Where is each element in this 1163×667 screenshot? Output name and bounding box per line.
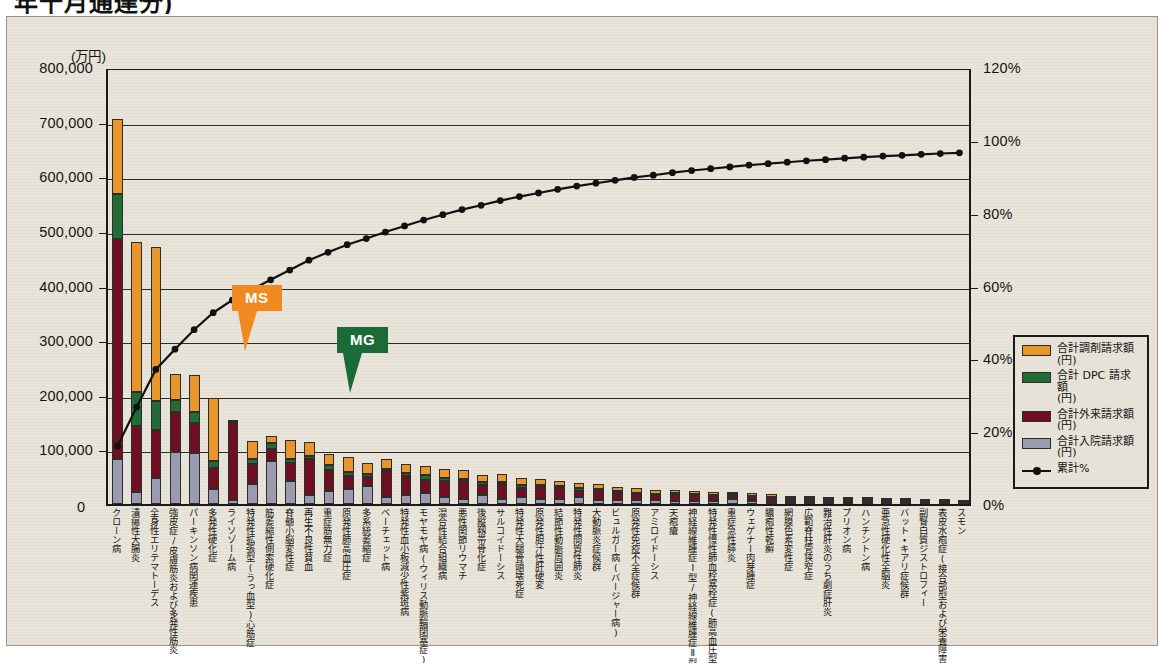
bar-stack[interactable] bbox=[208, 67, 219, 504]
x-axis-category-label: 膿疱性乾癬 bbox=[764, 508, 774, 663]
bar-segment-0 bbox=[612, 500, 623, 504]
bar-segment-3 bbox=[401, 464, 412, 473]
bar-segment-0 bbox=[843, 502, 854, 504]
bar-stack[interactable] bbox=[554, 67, 565, 504]
bar-stack[interactable] bbox=[285, 67, 296, 504]
bar-stack[interactable] bbox=[324, 67, 335, 504]
bar-stack[interactable] bbox=[112, 67, 123, 504]
bar-stack[interactable] bbox=[574, 67, 585, 504]
callout-ms-tail bbox=[238, 311, 257, 351]
bar-segment-0 bbox=[131, 492, 142, 504]
bar-segment-3 bbox=[823, 497, 834, 499]
y-axis-left-tick-label: 500,000 bbox=[7, 224, 93, 240]
bar-segment-1 bbox=[112, 239, 123, 459]
x-axis-category-label: 副腎白質ジストロフィー bbox=[918, 508, 928, 663]
x-axis-category-label: 特発性大腿骨頭壊死症 bbox=[514, 508, 524, 663]
bar-stack[interactable] bbox=[362, 67, 373, 504]
bar-segment-2 bbox=[285, 459, 296, 463]
bar-stack[interactable] bbox=[535, 67, 546, 504]
bar-stack[interactable] bbox=[477, 67, 488, 504]
bar-stack[interactable] bbox=[785, 67, 796, 504]
bar-stack[interactable] bbox=[516, 67, 527, 504]
bar-segment-3 bbox=[574, 483, 585, 488]
bar-stack[interactable] bbox=[593, 67, 604, 504]
callout-ms[interactable]: MS bbox=[232, 285, 282, 311]
bar-stack[interactable] bbox=[804, 67, 815, 504]
bar-stack[interactable] bbox=[304, 67, 315, 504]
bar-segment-3 bbox=[381, 459, 392, 468]
bar-stack[interactable] bbox=[401, 67, 412, 504]
bar-stack[interactable] bbox=[766, 67, 777, 504]
page-title-strip: 年十月通達分) bbox=[0, 0, 1163, 14]
bar-stack[interactable] bbox=[727, 67, 738, 504]
bar-segment-3 bbox=[304, 442, 315, 456]
legend-swatch-icon bbox=[1022, 345, 1051, 356]
bar-stack[interactable] bbox=[939, 67, 950, 504]
bar-segment-3 bbox=[228, 420, 239, 422]
bar-segment-3 bbox=[535, 479, 546, 485]
bar-segment-1 bbox=[497, 484, 508, 499]
bar-stack[interactable] bbox=[439, 67, 450, 504]
y-axis-left-tick-label: 400,000 bbox=[7, 279, 93, 295]
bar-segment-3 bbox=[708, 492, 719, 495]
bar-segment-1 bbox=[420, 480, 431, 493]
bar-segment-3 bbox=[631, 488, 642, 493]
bar-segment-1 bbox=[170, 412, 181, 452]
bar-segment-0 bbox=[516, 497, 527, 504]
x-axis-category-label: プリオン病 bbox=[841, 508, 851, 663]
bar-segment-3 bbox=[516, 478, 527, 485]
bar-stack[interactable] bbox=[631, 67, 642, 504]
bar-stack[interactable] bbox=[843, 67, 854, 504]
x-axis-category-label: ビュルガー病(バージャー病) bbox=[610, 508, 620, 663]
bar-segment-3 bbox=[554, 481, 565, 486]
bar-stack[interactable] bbox=[189, 67, 200, 504]
x-axis-category-label: ハンチントン病 bbox=[860, 508, 870, 663]
bar-segment-2 bbox=[170, 400, 181, 412]
bar-stack[interactable] bbox=[708, 67, 719, 504]
x-axis-category-label: 強皮症/皮膚筋炎および多発性筋炎 bbox=[168, 508, 178, 663]
bar-stack[interactable] bbox=[497, 67, 508, 504]
bar-segment-2 bbox=[574, 488, 585, 491]
bar-stack[interactable] bbox=[420, 67, 431, 504]
x-axis-category-label: 筋萎縮性側索硬化症 bbox=[264, 508, 274, 663]
bar-segment-0 bbox=[324, 491, 335, 504]
legend-label: 合計入院請求額(円) bbox=[1057, 436, 1134, 459]
bar-segment-3 bbox=[939, 499, 950, 501]
bar-segment-0 bbox=[362, 486, 373, 504]
bar-stack[interactable] bbox=[170, 67, 181, 504]
x-axis-category-label: 亜急性硬化性全脳炎 bbox=[880, 508, 890, 663]
x-axis-category-label: 潰瘍性大腸炎 bbox=[130, 508, 140, 663]
y-axis-right-tick bbox=[971, 360, 978, 361]
bar-stack[interactable] bbox=[900, 67, 911, 504]
bar-stack[interactable] bbox=[670, 67, 681, 504]
bar-stack[interactable] bbox=[650, 67, 661, 504]
bar-stack[interactable] bbox=[381, 67, 392, 504]
chart-frame: (万円) 800,000700,000600,000500,000400,000… bbox=[6, 16, 1158, 646]
bar-stack[interactable] bbox=[612, 67, 623, 504]
bar-segment-3 bbox=[727, 492, 738, 494]
bar-stack[interactable] bbox=[131, 67, 142, 504]
x-axis-category-label: ライソゾーム病 bbox=[226, 508, 236, 663]
bar-segment-1 bbox=[766, 498, 777, 502]
bar-segment-1 bbox=[650, 495, 661, 499]
bar-stack[interactable] bbox=[862, 67, 873, 504]
callout-mg[interactable]: MG bbox=[337, 327, 388, 353]
bar-stack[interactable] bbox=[881, 67, 892, 504]
bar-stack[interactable] bbox=[458, 67, 469, 504]
bar-segment-3 bbox=[131, 242, 142, 392]
bar-stack[interactable] bbox=[958, 67, 969, 504]
bar-stack[interactable] bbox=[151, 67, 162, 504]
bar-stack[interactable] bbox=[747, 67, 758, 504]
bar-segment-0 bbox=[285, 481, 296, 504]
bar-stack[interactable] bbox=[343, 67, 354, 504]
bar-stack[interactable] bbox=[823, 67, 834, 504]
bar-segment-1 bbox=[401, 476, 412, 496]
y-axis-left-tick bbox=[99, 397, 106, 398]
bar-segment-0 bbox=[497, 499, 508, 504]
bar-segment-1 bbox=[304, 459, 315, 495]
bar-segment-3 bbox=[689, 491, 700, 494]
legend-box: 合計調剤請求額(円)合計 DPC 請求額(円)合計外来請求額(円)合計入院請求額… bbox=[1013, 335, 1149, 489]
bar-stack[interactable] bbox=[920, 67, 931, 504]
bar-segment-0 bbox=[247, 484, 258, 504]
bar-stack[interactable] bbox=[689, 67, 700, 504]
